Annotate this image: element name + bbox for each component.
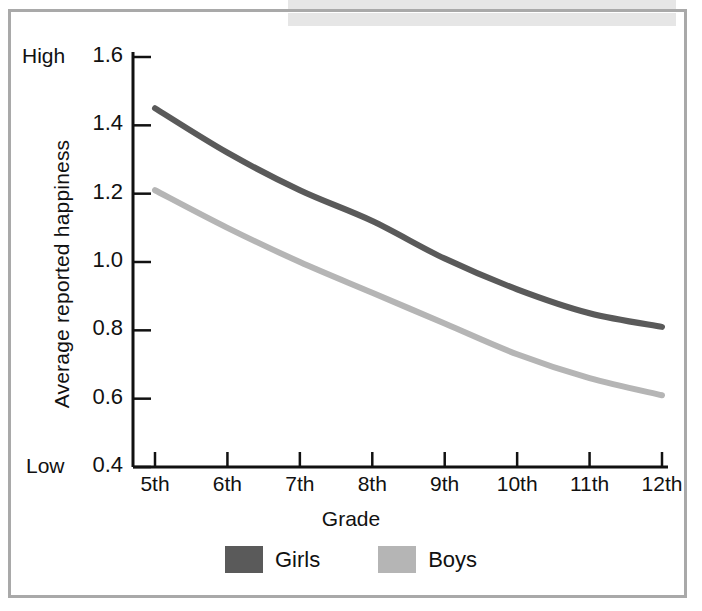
y-axis-high-label: High: [22, 44, 65, 68]
plot-area: 1.61.41.21.00.80.60.4 5th6th7th8th9th10t…: [0, 0, 702, 611]
x-tick-label: 6th: [192, 472, 262, 496]
legend-label: Boys: [428, 549, 477, 571]
x-tick-label: 9th: [410, 472, 480, 496]
legend-item-boys[interactable]: Boys: [378, 546, 477, 573]
x-tick-label: 5th: [120, 472, 190, 496]
y-axis-low-label: Low: [26, 454, 65, 478]
legend-item-girls[interactable]: Girls: [225, 546, 320, 573]
y-tick-label: 0.4: [65, 452, 123, 478]
series-line-girls: [155, 108, 662, 327]
x-tick-label: 11th: [555, 472, 625, 496]
series-lines: [155, 108, 662, 395]
x-tick-label: 8th: [337, 472, 407, 496]
legend-swatch-icon: [378, 546, 416, 573]
legend-label: Girls: [275, 549, 320, 571]
x-tick-label: 7th: [265, 472, 335, 496]
y-axis-ticks: [133, 57, 151, 467]
chart-page: 1.61.41.21.00.80.60.4 5th6th7th8th9th10t…: [0, 0, 702, 611]
chart-legend: GirlsBoys: [0, 546, 702, 573]
x-tick-label: 10th: [482, 472, 552, 496]
x-axis-ticks: [155, 452, 662, 467]
legend-swatch-icon: [225, 546, 263, 573]
y-axis-title: Average reported happiness: [50, 124, 74, 424]
series-line-boys: [155, 190, 662, 395]
x-axis-title: Grade: [0, 507, 702, 531]
y-tick-label: 1.6: [65, 42, 123, 68]
x-tick-label: 12th: [627, 472, 697, 496]
